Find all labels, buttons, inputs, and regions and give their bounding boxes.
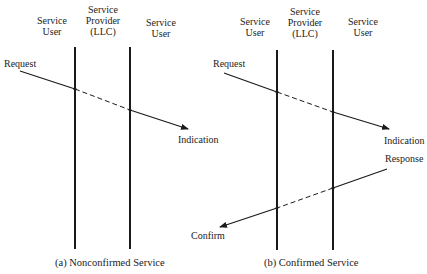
caption-a: (a) Nonconfirmed Service bbox=[55, 257, 165, 268]
column-header-service-user-right-a: Service User bbox=[141, 17, 181, 39]
header-line: User bbox=[343, 27, 383, 38]
header-line: User bbox=[32, 26, 72, 37]
column-header-service-user-right-b: Service User bbox=[343, 16, 383, 38]
header-line: Service bbox=[32, 15, 72, 26]
column-header-service-provider-b: Service Provider (LLC) bbox=[285, 6, 325, 39]
header-line: Service bbox=[83, 4, 123, 15]
column-header-service-user-left-a: Service User bbox=[32, 15, 72, 37]
column-header-service-user-left-b: Service User bbox=[235, 16, 275, 38]
header-line: Service bbox=[285, 6, 325, 17]
request-arrow-b-seg1 bbox=[224, 73, 277, 92]
panel-a-lines bbox=[20, 47, 188, 249]
event-label-response-b: Response bbox=[385, 153, 423, 164]
panel-b-lines bbox=[220, 50, 389, 250]
column-header-service-provider-a: Service Provider (LLC) bbox=[83, 4, 123, 37]
response-arrow-b-seg1 bbox=[333, 169, 387, 188]
response-arrow-b-dashed bbox=[277, 188, 333, 208]
event-label-confirm-b: Confirm bbox=[191, 230, 225, 241]
junction-dot bbox=[332, 111, 335, 114]
junction-dot bbox=[129, 109, 132, 112]
confirm-arrow-b bbox=[220, 208, 277, 227]
event-label-request-a: Request bbox=[4, 58, 36, 69]
header-line: Service bbox=[141, 17, 181, 28]
header-line: Provider bbox=[83, 15, 123, 26]
header-line: Service bbox=[343, 16, 383, 27]
caption-b: (b) Confirmed Service bbox=[264, 257, 358, 268]
header-line: (LLC) bbox=[83, 26, 123, 37]
header-line: Service bbox=[235, 16, 275, 27]
request-arrow-b-dashed bbox=[277, 92, 333, 112]
event-label-indication-a: Indication bbox=[178, 134, 219, 145]
header-line: (LLC) bbox=[285, 28, 325, 39]
junction-dot bbox=[73, 87, 76, 90]
header-line: User bbox=[235, 27, 275, 38]
junction-dot bbox=[331, 186, 334, 189]
header-line: User bbox=[141, 28, 181, 39]
request-arrow-a-seg1 bbox=[20, 71, 75, 89]
indication-arrow-b bbox=[333, 112, 389, 129]
event-label-indication-b: Indication bbox=[384, 135, 425, 146]
indication-arrow-a bbox=[130, 110, 188, 129]
event-label-request-b: Request bbox=[213, 58, 245, 69]
junction-dot bbox=[276, 207, 279, 210]
header-line: Provider bbox=[285, 17, 325, 28]
request-arrow-a-dashed bbox=[75, 89, 130, 110]
junction-dot bbox=[275, 90, 278, 93]
